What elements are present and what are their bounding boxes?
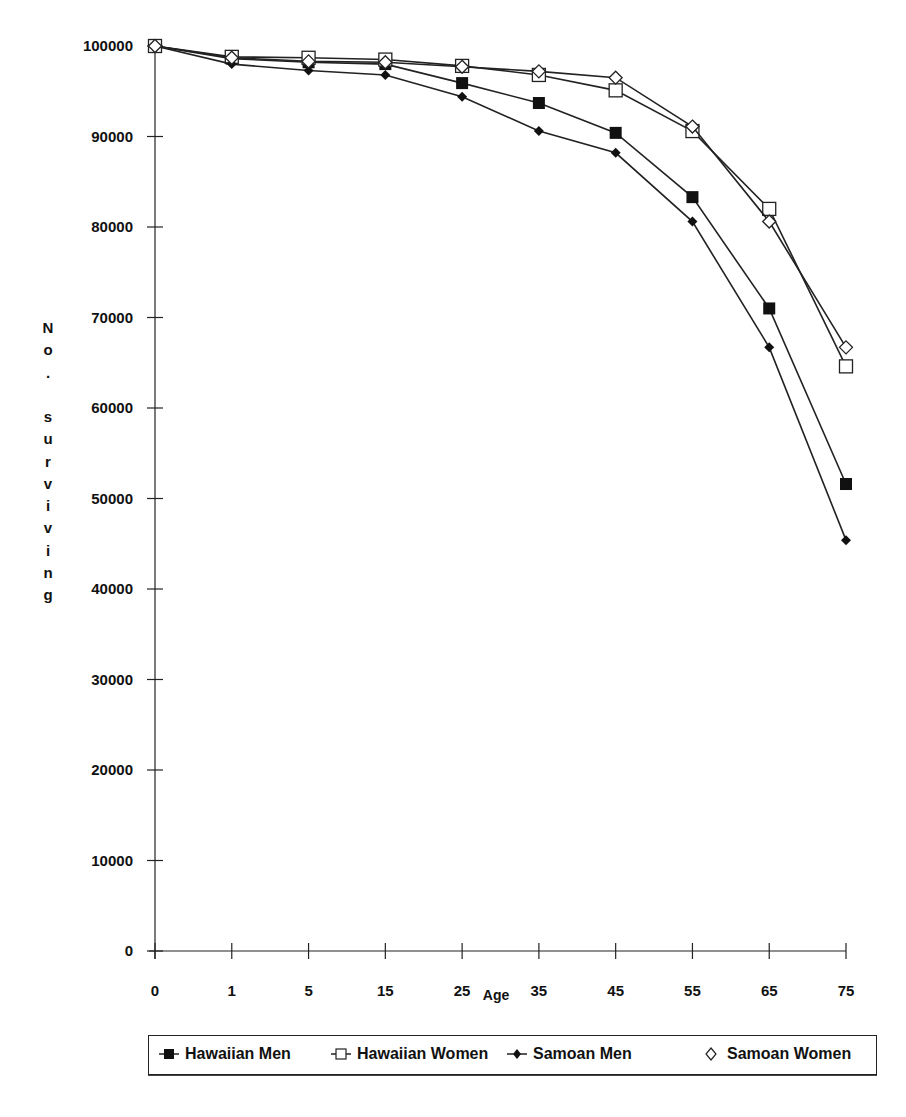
x-tick-label: 75: [838, 982, 855, 999]
survival-chart: No.surviving 010000200003000040000500006…: [0, 0, 906, 1030]
y-axis: 0100002000030000400005000060000700008000…: [83, 37, 163, 959]
x-tick-label: 35: [531, 982, 548, 999]
legend: Hawaiian Men Hawaiian Women Samoan Men S…: [148, 1035, 877, 1075]
svg-text:i: i: [46, 497, 50, 514]
filled-diamond-icon: [507, 1047, 527, 1061]
legend-label: Hawaiian Men: [185, 1045, 291, 1063]
x-tick-label: 5: [304, 982, 312, 999]
x-tick-label: 1: [228, 982, 236, 999]
y-tick-label: 0: [125, 942, 133, 959]
y-tick-label: 30000: [91, 671, 133, 688]
open-diamond-icon: [701, 1047, 721, 1061]
svg-text:.: .: [46, 364, 50, 381]
svg-text:i: i: [46, 542, 50, 559]
y-tick-label: 100000: [83, 37, 133, 54]
legend-label: Samoan Men: [533, 1045, 632, 1063]
y-tick-label: 20000: [91, 761, 133, 778]
legend-item-hawaiian-women: Hawaiian Women: [331, 1045, 488, 1063]
legend-item-hawaiian-men: Hawaiian Men: [159, 1045, 291, 1063]
svg-text:o: o: [43, 341, 52, 358]
series-hawaiian-men: [149, 40, 852, 490]
y-tick-label: 60000: [91, 399, 133, 416]
y-tick-label: 40000: [91, 580, 133, 597]
y-tick-label: 70000: [91, 309, 133, 326]
x-tick-label: 55: [684, 982, 701, 999]
x-tick-label: 45: [607, 982, 624, 999]
filled-square-icon: [159, 1047, 179, 1061]
svg-text:s: s: [44, 408, 52, 425]
svg-text:r: r: [45, 453, 51, 470]
x-tick-label: 25: [454, 982, 471, 999]
legend-item-samoan-men: Samoan Men: [507, 1045, 632, 1063]
series-samoan-men: [150, 41, 851, 545]
x-tick-label: 65: [761, 982, 778, 999]
svg-text:N: N: [43, 319, 54, 336]
legend-item-samoan-women: Samoan Women: [701, 1045, 851, 1063]
svg-text:v: v: [44, 475, 53, 492]
open-square-icon: [331, 1047, 351, 1061]
legend-label: Hawaiian Women: [357, 1045, 488, 1063]
svg-text:n: n: [43, 564, 52, 581]
series-samoan-women: [149, 40, 853, 354]
y-tick-label: 10000: [91, 852, 133, 869]
y-tick-label: 80000: [91, 218, 133, 235]
x-tick-label: 15: [377, 982, 394, 999]
svg-text:g: g: [43, 586, 52, 603]
svg-text:u: u: [43, 430, 52, 447]
legend-label: Samoan Women: [727, 1045, 851, 1063]
svg-text:v: v: [44, 519, 53, 536]
x-axis-label: Age: [483, 987, 510, 1003]
x-tick-label: 0: [151, 982, 159, 999]
y-axis-label: No.surviving: [43, 319, 54, 603]
plot-area: [149, 40, 853, 546]
y-tick-label: 90000: [91, 128, 133, 145]
series-hawaiian-women: [149, 40, 853, 373]
y-tick-label: 50000: [91, 490, 133, 507]
